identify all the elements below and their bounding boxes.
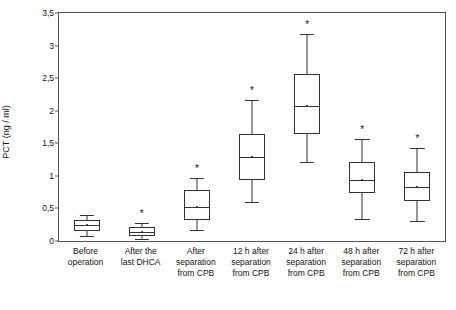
box [349, 162, 375, 194]
y-axis-tick-mark [55, 45, 59, 46]
y-axis-tick-mark [55, 78, 59, 79]
y-axis-tick-mark [55, 13, 59, 14]
mean-marker [251, 156, 253, 158]
whisker-cap-upper [245, 100, 259, 101]
whisker-cap-lower [190, 230, 204, 231]
mean-marker [416, 186, 418, 188]
y-axis-label: PCT (ng / ml) [1, 105, 11, 158]
significance-marker: * [250, 86, 254, 96]
whisker-cap-lower [79, 236, 93, 237]
whisker-cap-upper [190, 178, 204, 179]
mean-marker [141, 231, 143, 233]
plot-area: 00,511,522,533,5****** [59, 13, 445, 241]
mean-marker [86, 224, 88, 226]
y-axis-tick-mark [55, 175, 59, 176]
mean-marker [196, 206, 198, 208]
box [294, 74, 320, 134]
plot-frame: 00,511,522,533,5****** [58, 12, 446, 242]
whisker-cap-upper [355, 139, 369, 140]
y-axis-tick-mark [55, 110, 59, 111]
y-axis-tick-mark [55, 241, 59, 242]
whisker-cap-upper [300, 34, 314, 35]
whisker-cap-lower [355, 219, 369, 220]
boxplot-chart: PCT (ng / ml) 00,511,522,533,5****** Bef… [0, 0, 456, 310]
whisker-cap-upper [79, 215, 93, 216]
y-axis-tick-mark [55, 208, 59, 209]
x-axis-tick-label: 72 h afterseparationfrom CPB [384, 246, 448, 279]
significance-marker: * [305, 20, 309, 30]
whisker-cap-lower [300, 162, 314, 163]
significance-marker: * [195, 164, 199, 174]
box [184, 190, 210, 219]
mean-marker [361, 179, 363, 181]
whisker-cap-lower [135, 239, 149, 240]
significance-marker: * [360, 125, 364, 135]
whisker-cap-upper [135, 223, 149, 224]
mean-marker [306, 105, 308, 107]
significance-marker: * [140, 209, 144, 219]
significance-marker: * [415, 134, 419, 144]
whisker-cap-upper [410, 148, 424, 149]
whisker-cap-lower [245, 202, 259, 203]
whisker-cap-lower [410, 221, 424, 222]
y-axis-tick-mark [55, 143, 59, 144]
